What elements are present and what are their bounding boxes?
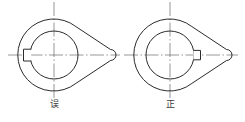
keyway-notch-wrong xyxy=(24,49,32,61)
drawing-sheet: 误 正 xyxy=(0,0,245,122)
caption-wrong: 误 xyxy=(42,99,66,110)
caption-correct: 正 xyxy=(158,99,182,110)
panel-correct xyxy=(124,2,238,98)
keyway-notch-correct xyxy=(193,50,200,59)
technical-drawing-canvas xyxy=(0,0,245,122)
panel-wrong xyxy=(8,2,120,98)
